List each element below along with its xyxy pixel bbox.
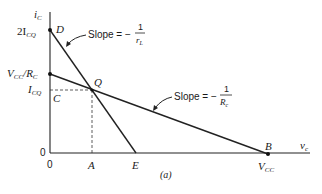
y-tick-icq: ICQ: [27, 83, 41, 97]
x-axis-label: vc: [300, 139, 309, 153]
x-tick-zero: 0: [47, 159, 53, 170]
y-axis-label: iC: [34, 8, 42, 22]
point-d: [48, 28, 52, 32]
dc-slope-arrow: [155, 97, 172, 108]
label-d: D: [55, 23, 64, 35]
x-tick-vcc: VCC: [258, 160, 274, 174]
point-q: [90, 88, 93, 91]
ac-slope-numerator: 1: [138, 22, 143, 32]
figure-caption: (a): [160, 169, 172, 181]
label-q: Q: [94, 76, 102, 88]
y-tick-zero: 0: [40, 147, 46, 158]
ac-load-line: [50, 30, 136, 153]
y-tick-vcc-rc: VCC/RC: [7, 67, 38, 81]
point-b: [266, 152, 270, 156]
dc-slope-text: Slope = −: [174, 91, 217, 102]
x-tick-a: A: [87, 159, 95, 171]
dc-slope-numerator: 1: [224, 84, 229, 94]
label-b: B: [265, 140, 272, 152]
load-line-diagram: iC 2ICQ VCC/RC ICQ 0 0 A E VCC vc D Q C …: [0, 0, 322, 194]
dc-slope-denominator: Rc: [219, 97, 229, 108]
y-tick-2icq: 2ICQ: [17, 25, 36, 39]
point-vcc-rc: [48, 72, 52, 76]
ac-slope-arrow: [68, 35, 86, 44]
label-c: C: [53, 92, 61, 104]
ac-slope-denominator: rL: [136, 35, 144, 46]
dc-load-line: [50, 74, 268, 154]
x-tick-e: E: [131, 159, 139, 171]
ac-slope-text: Slope = −: [88, 29, 131, 40]
